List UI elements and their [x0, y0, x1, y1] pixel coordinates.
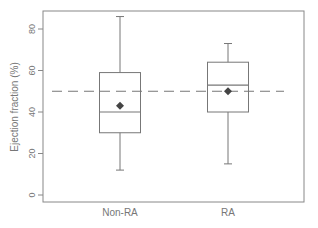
plot-frame: [43, 11, 304, 202]
y-tick-label: 20: [27, 148, 37, 158]
box-non-ra: [100, 17, 141, 171]
x-axis-labels: Non-RARA: [102, 207, 235, 218]
x-tick-label: RA: [221, 207, 235, 218]
box-ra: [208, 44, 249, 164]
y-tick-label: 60: [27, 65, 37, 75]
y-axis: 020406080: [27, 24, 43, 198]
x-tick-label: Non-RA: [102, 207, 138, 218]
y-tick-label: 80: [27, 24, 37, 34]
box-plot-chart: 020406080 Ejection fraction (%) Non-RARA: [0, 0, 318, 228]
mean-marker-icon: [224, 87, 232, 95]
y-axis-label: Ejection fraction (%): [9, 62, 20, 151]
y-tick-label: 0: [27, 192, 37, 197]
iqr-box: [208, 62, 249, 112]
boxes: [100, 17, 249, 171]
y-tick-label: 40: [27, 107, 37, 117]
mean-marker-icon: [116, 102, 124, 110]
